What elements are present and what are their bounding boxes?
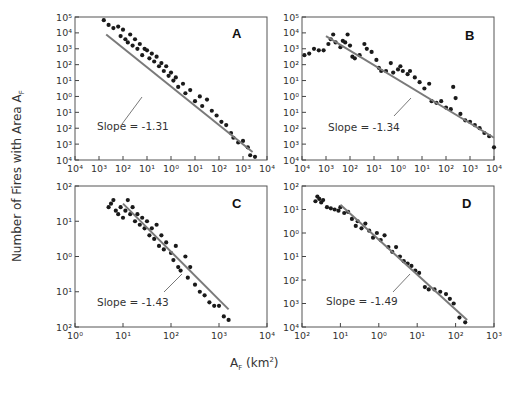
y-tick-label: 10³ — [56, 139, 72, 150]
annotation-leader — [394, 98, 411, 116]
data-point — [147, 56, 151, 60]
data-point — [215, 113, 219, 117]
data-point — [205, 98, 209, 102]
x-tick-label: 10¹ — [187, 163, 203, 174]
data-point — [116, 24, 120, 28]
data-point — [131, 44, 135, 48]
data-point — [370, 50, 374, 54]
panel-letter: B — [465, 28, 474, 43]
slope-annotation: Slope = -1.49 — [326, 295, 398, 307]
data-point — [119, 34, 123, 38]
data-point — [200, 104, 204, 108]
data-point — [174, 244, 178, 248]
data-point — [133, 37, 137, 41]
data-point — [181, 82, 185, 86]
x-axis-title-text: A — [230, 356, 238, 370]
data-point — [198, 290, 202, 294]
data-point — [107, 205, 111, 209]
data-point — [126, 198, 130, 202]
data-point — [427, 82, 431, 86]
data-point — [408, 69, 412, 73]
y-axis-title: Number of Fires with Area AF — [10, 76, 26, 276]
panel-letter: C — [232, 196, 242, 211]
data-point — [116, 212, 120, 216]
data-point — [193, 283, 197, 287]
data-point — [203, 293, 207, 297]
x-tick-label: 10¹ — [366, 163, 382, 174]
data-point — [114, 209, 118, 213]
data-point — [359, 226, 363, 230]
y-tick-label: 10² — [56, 322, 72, 333]
y-tick-label: 10¹ — [56, 75, 72, 86]
y-tick-label: 10⁵ — [56, 12, 72, 23]
x-tick-label: 10¹ — [409, 330, 425, 341]
data-point — [174, 75, 178, 79]
data-point — [253, 155, 257, 159]
data-point — [401, 69, 405, 73]
figure-canvas: 10⁴10³10²10¹10⁰10¹10²10³10⁴10⁵10⁴10³10²1… — [0, 0, 516, 394]
data-point — [121, 216, 125, 220]
x-tick-label: 10⁰ — [163, 163, 179, 174]
data-point — [391, 71, 395, 75]
data-point — [343, 40, 347, 44]
data-point — [336, 209, 340, 213]
y-tick-label: 10² — [56, 181, 72, 192]
x-tick-label: 10³ — [91, 163, 107, 174]
data-point — [140, 53, 144, 57]
data-point — [439, 99, 443, 103]
data-point — [210, 109, 214, 113]
data-point — [111, 198, 115, 202]
data-point — [128, 32, 132, 36]
data-point — [375, 231, 379, 235]
data-point — [212, 304, 216, 308]
data-point — [448, 297, 452, 301]
x-tick-label: 10³ — [486, 330, 502, 341]
data-point — [155, 55, 159, 59]
data-point — [176, 265, 180, 269]
data-point — [321, 198, 325, 202]
data-point — [164, 240, 168, 244]
y-tick-label: 10⁴ — [56, 155, 72, 166]
data-point — [362, 42, 366, 46]
x-tick-label: 10² — [163, 330, 179, 341]
x-tick-label: 10² — [115, 163, 131, 174]
y-tick-label: 10⁴ — [283, 155, 299, 166]
data-point — [150, 51, 154, 55]
data-point — [452, 301, 456, 305]
data-point — [176, 85, 180, 89]
x-tick-label: 10² — [438, 163, 454, 174]
data-point — [169, 71, 173, 75]
data-point — [398, 64, 402, 68]
y-tick-label: 10¹ — [56, 107, 72, 118]
panel-a: 10⁴10³10²10¹10⁰10¹10²10³10⁴10⁵10⁴10³10²1… — [56, 12, 275, 175]
data-point — [348, 44, 352, 48]
data-point — [427, 287, 431, 291]
x-tick-label: 10¹ — [115, 330, 131, 341]
data-point — [302, 53, 306, 57]
data-point — [326, 42, 330, 46]
data-point — [365, 47, 369, 51]
x-tick-label: 10³ — [235, 163, 251, 174]
data-point — [188, 88, 192, 92]
annotation-leader — [164, 274, 182, 292]
data-point — [317, 48, 321, 52]
y-tick-label: 10¹ — [283, 75, 299, 86]
data-point — [123, 209, 127, 213]
data-point — [179, 269, 183, 273]
data-point — [444, 292, 448, 296]
data-point — [219, 120, 223, 124]
data-point — [492, 145, 496, 149]
x-tick-label: 10³ — [211, 330, 227, 341]
y-tick-label: 10² — [283, 123, 299, 134]
data-point — [193, 99, 197, 103]
x-tick-label: 10³ — [318, 163, 334, 174]
data-point — [131, 205, 135, 209]
y-tick-label: 10⁰ — [283, 228, 299, 239]
data-point — [389, 61, 393, 65]
data-point — [227, 318, 231, 322]
x-tick-label: 10⁰ — [390, 163, 406, 174]
data-point — [325, 205, 329, 209]
data-point — [119, 205, 123, 209]
x-tick-label: 10³ — [462, 163, 478, 174]
slope-annotation: Slope = -1.43 — [97, 296, 169, 308]
